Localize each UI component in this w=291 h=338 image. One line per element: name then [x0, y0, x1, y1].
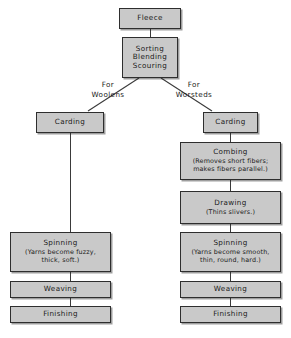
node-carding-woolens[interactable]: Carding — [36, 112, 104, 133]
node-combing[interactable]: Combing (Removes short fibers; makes fib… — [180, 142, 281, 180]
node-spinning-worsteds-desc-line2: thin, round, hard.) — [191, 257, 269, 265]
node-fleece[interactable]: Fleece — [119, 8, 181, 29]
node-weaving-worsteds-title: Weaving — [214, 285, 247, 293]
node-spinning-woolens-desc-line2: thick, soft.) — [25, 257, 96, 265]
node-combing-desc-line2: makes fibers parallel.) — [193, 166, 269, 174]
connector-drawing-to-spinning — [230, 224, 231, 232]
node-spinning-woolens[interactable]: Spinning (Yarns become fuzzy, thick, sof… — [10, 232, 111, 272]
node-finishing-woolens-title: Finishing — [43, 310, 78, 318]
node-weaving-woolens-title: Weaving — [44, 285, 77, 293]
node-finishing-woolens[interactable]: Finishing — [10, 306, 111, 323]
connector-carding-to-combing — [230, 133, 231, 142]
node-drawing-title: Drawing — [214, 199, 246, 207]
node-spinning-worsteds-desc: (Yarns become smooth, thin, round, hard.… — [191, 249, 269, 264]
node-carding-worsteds-title: Carding — [215, 118, 245, 126]
connector-spinning-to-weaving-woolens — [70, 272, 71, 281]
node-combing-title: Combing — [213, 148, 248, 156]
node-weaving-worsteds[interactable]: Weaving — [180, 281, 281, 298]
node-drawing-desc-line1: (Thins slivers.) — [206, 208, 255, 216]
branch-label-woolens: For Woolens — [80, 80, 136, 101]
connector-branch-split — [0, 78, 291, 114]
connector-spinning-to-weaving-worsteds — [230, 272, 231, 281]
branch-worsteds-line2: Worsteds — [164, 90, 224, 100]
node-carding-worsteds[interactable]: Carding — [203, 112, 258, 133]
node-sorting-line3: Scouring — [133, 62, 167, 70]
branch-woolens-line1: For — [102, 80, 114, 89]
node-drawing-desc: (Thins slivers.) — [206, 209, 255, 217]
node-spinning-woolens-desc: (Yarns become fuzzy, thick, soft.) — [25, 249, 96, 264]
node-weaving-woolens[interactable]: Weaving — [10, 281, 111, 298]
node-spinning-worsteds-title: Spinning — [213, 239, 247, 247]
node-carding-woolens-title: Carding — [55, 118, 85, 126]
branch-worsteds-line1: For — [188, 80, 200, 89]
node-combing-desc: (Removes short fibers; makes fibers para… — [193, 158, 269, 173]
flowchart-canvas: For Woolens For Worsteds Fleece Sorting … — [0, 0, 291, 338]
connector-weaving-to-finishing-woolens — [70, 298, 71, 306]
node-fleece-title: Fleece — [137, 14, 162, 22]
node-finishing-worsteds[interactable]: Finishing — [180, 306, 281, 323]
branch-label-worsteds: For Worsteds — [164, 80, 224, 101]
branch-woolens-line2: Woolens — [80, 90, 136, 100]
node-spinning-woolens-title: Spinning — [43, 239, 77, 247]
connector-fleece-to-sorting — [150, 29, 151, 37]
connector-weaving-to-finishing-worsteds — [230, 298, 231, 306]
connector-carding-to-spinning-woolens — [70, 133, 71, 232]
node-spinning-worsteds[interactable]: Spinning (Yarns become smooth, thin, rou… — [180, 232, 281, 272]
node-sorting-blending-scouring[interactable]: Sorting Blending Scouring — [122, 37, 178, 78]
node-finishing-worsteds-title: Finishing — [213, 310, 248, 318]
node-drawing[interactable]: Drawing (Thins slivers.) — [180, 191, 281, 224]
connector-combing-to-drawing — [230, 180, 231, 191]
